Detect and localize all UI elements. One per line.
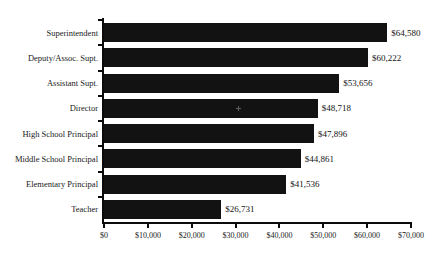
category-tick (98, 171, 104, 173)
value-tick (278, 222, 280, 228)
value-tick-label: $20,000 (179, 231, 205, 240)
category-tick (98, 19, 104, 21)
bar-assistant-supt (104, 74, 339, 93)
category-label: Superintendent (47, 28, 98, 38)
value-label: $53,656 (343, 78, 372, 88)
scan-artifact-icon (236, 106, 241, 111)
value-label: $48,718 (322, 103, 351, 113)
value-tick-label: $0 (100, 231, 108, 240)
value-label: $60,222 (372, 53, 401, 63)
category-tick (98, 196, 104, 198)
value-label: $64,580 (391, 28, 420, 38)
bar-middle-school-principal (104, 149, 301, 168)
value-tick (322, 222, 324, 228)
value-tick-label: $60,000 (354, 231, 380, 240)
category-label: Middle School Principal (15, 154, 98, 164)
category-tick (98, 95, 104, 97)
value-tick (366, 222, 368, 228)
category-label: Deputy/Assoc. Supt. (28, 53, 98, 63)
value-label: $41,536 (290, 179, 319, 189)
category-label: Elementary Principal (26, 179, 98, 189)
category-tick (98, 44, 104, 46)
salary-bar-chart: Superintendent$64,580Deputy/Assoc. Supt.… (0, 0, 434, 255)
category-label: Director (70, 103, 98, 113)
category-tick (98, 145, 104, 147)
bar-teacher (104, 200, 221, 219)
value-tick (191, 222, 193, 228)
value-label: $44,861 (305, 154, 334, 164)
bar-elementary-principal (104, 175, 286, 194)
category-label: High School Principal (22, 129, 98, 139)
value-label: $47,896 (318, 129, 347, 139)
value-tick-label: $10,000 (135, 231, 161, 240)
value-tick (147, 222, 149, 228)
category-tick (98, 120, 104, 122)
category-label: Assistant Supt. (47, 78, 98, 88)
value-label: $26,731 (225, 204, 254, 214)
value-tick-label: $70,000 (398, 231, 424, 240)
value-tick-label: $30,000 (223, 231, 249, 240)
bar-superintendent (104, 23, 387, 42)
plot-area (104, 20, 411, 222)
bar-director (104, 99, 318, 118)
value-tick (103, 222, 105, 228)
bar-high-school-principal (104, 124, 314, 143)
value-tick-label: $40,000 (266, 231, 292, 240)
value-tick-label: $50,000 (310, 231, 336, 240)
category-label: Teacher (71, 204, 98, 214)
category-tick (98, 70, 104, 72)
value-tick (410, 222, 412, 228)
value-tick (235, 222, 237, 228)
bar-deputy-assoc-supt (104, 48, 368, 67)
